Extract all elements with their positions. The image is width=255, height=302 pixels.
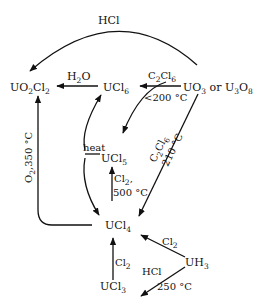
reagent-hcl-arc: HCl [98,14,120,27]
reagent-o2-350: O2,350 °C [23,132,37,183]
arrow-ucl5-to-ucl4 [84,158,99,215]
condition-250c: 250 °C [157,281,192,292]
reagent-cl2-500: Cl2, [114,173,133,187]
compound-ucl4: UCl4 [105,219,131,234]
reagent-hcl-250: HCl [142,266,162,277]
compound-uo3-or-u3o8: UO3 or U3O8 [183,81,253,96]
arrow-uo3-to-ucl5 [123,82,166,133]
compound-uh3: UH3 [185,256,209,271]
compound-uo2cl2: UO2Cl2 [10,81,50,96]
condition-500c: 500 °C [113,187,148,198]
arrow-uo3-to-uo2cl2 [30,31,197,71]
compound-ucl3: UCl3 [100,280,126,295]
condition-lt-200c: <200 °C [144,92,188,103]
compound-ucl5: UCl5 [101,152,127,167]
reagent-cl2-uh3: Cl2 [162,236,178,250]
reagent-cl2-ucl3: Cl2 [115,257,131,271]
reagent-c2cl6-top: C2Cl6 [148,70,176,84]
reagent-h2o: H2O [67,70,90,85]
compound-ucl6: UCl6 [103,81,129,96]
arrow-ucl4-to-uo2cl2 [38,96,92,225]
uranium-chloride-reaction-diagram: HCl UO2Cl2 H2O UCl6 C2Cl6 UO3 or U3O8 <2… [0,0,255,302]
